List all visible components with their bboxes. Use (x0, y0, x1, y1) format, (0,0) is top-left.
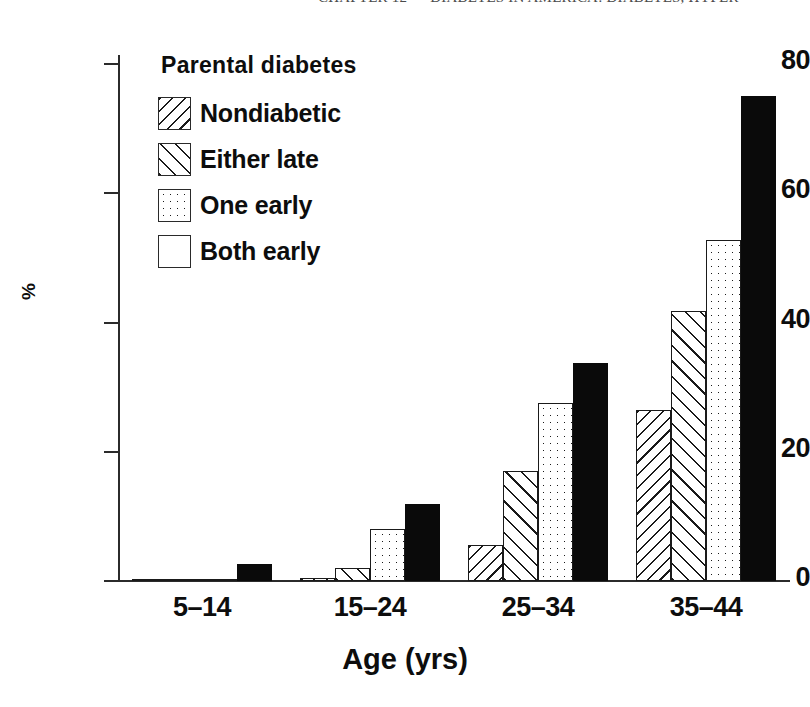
bar (573, 363, 608, 581)
y-axis-tick (104, 192, 119, 194)
bar (405, 504, 440, 581)
legend-title: Parental diabetes (161, 52, 458, 79)
x-axis-tick-label: 25–34 (454, 592, 622, 623)
bar (132, 579, 167, 581)
bar (741, 96, 776, 581)
legend-item: Both early (158, 228, 458, 274)
y-axis-title: % (18, 283, 40, 300)
legend-swatch-icon (158, 189, 191, 222)
bar (468, 545, 503, 581)
x-axis-tick-label: 5–14 (118, 592, 286, 623)
bar (237, 564, 272, 581)
legend-item-label: Either late (200, 145, 319, 174)
x-axis-tick-label: 35–44 (622, 592, 790, 623)
bar (636, 410, 671, 581)
bar (202, 579, 237, 581)
legend: Parental diabetes NondiabeticEither late… (158, 52, 458, 274)
bar (538, 403, 573, 581)
bar (503, 471, 538, 581)
y-axis-tick (104, 451, 119, 453)
legend-item: Either late (158, 136, 458, 182)
bar (300, 578, 335, 581)
bar (335, 568, 370, 581)
legend-item-label: One early (200, 191, 312, 220)
legend-item: One early (158, 182, 458, 228)
bar-chart: 020406080 % 5–1415–2425–3435–44 Age (yrs… (0, 0, 810, 707)
y-axis-tick (104, 63, 119, 65)
y-axis-tick (104, 580, 119, 582)
legend-swatch-icon (158, 235, 191, 268)
bar (671, 311, 706, 581)
legend-item-label: Both early (200, 237, 320, 266)
legend-swatch-icon (158, 143, 191, 176)
legend-item: Nondiabetic (158, 90, 458, 136)
x-axis-title: Age (yrs) (0, 643, 810, 676)
bar (706, 240, 741, 581)
bar (370, 529, 405, 581)
y-axis-tick (104, 322, 119, 324)
x-axis-tick-label: 15–24 (286, 592, 454, 623)
legend-item-label: Nondiabetic (200, 99, 341, 128)
legend-swatch-icon (158, 97, 191, 130)
bar (167, 579, 202, 581)
legend-entries: NondiabeticEither lateOne earlyBoth earl… (158, 90, 458, 274)
